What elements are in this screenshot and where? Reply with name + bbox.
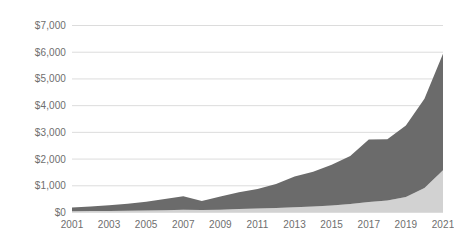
y-tick-label: $3,000 — [8, 126, 66, 137]
x-tick-label: 2007 — [172, 219, 195, 230]
y-tick-label: $6,000 — [8, 46, 66, 57]
y-tick-label: $7,000 — [8, 20, 66, 31]
x-tick-label: 2005 — [135, 219, 158, 230]
x-tick-label: 2013 — [283, 219, 306, 230]
y-tick-label: $2,000 — [8, 153, 66, 164]
x-tick-label: 2009 — [209, 219, 232, 230]
area-series-group — [72, 54, 443, 212]
x-tick-label: 2011 — [247, 219, 269, 230]
x-tick-label: 2001 — [61, 219, 84, 230]
y-tick-label: $1,000 — [8, 180, 66, 191]
y-tick-label: $5,000 — [8, 73, 66, 84]
x-tick-label: 2017 — [357, 219, 380, 230]
y-tick-label: $0 — [8, 207, 66, 218]
x-tick-label: 2015 — [320, 219, 343, 230]
y-tick-label: $4,000 — [8, 100, 66, 111]
x-tick-label: 2019 — [395, 219, 418, 230]
x-tick-label: 2003 — [98, 219, 121, 230]
x-tick-label: 2021 — [432, 219, 454, 230]
